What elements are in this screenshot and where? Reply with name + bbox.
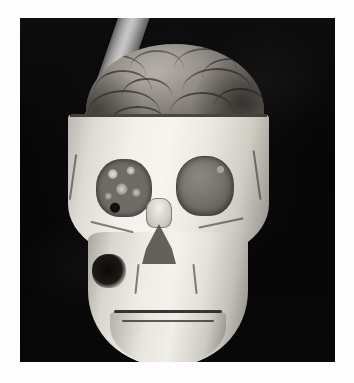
figure-caption [22,370,322,383]
dental-occlusal-line [114,310,222,313]
skull [66,114,271,362]
document-page [0,0,354,383]
maxillary-bone-defect [92,254,126,288]
left-orbit-bone-detail [96,159,152,217]
right-orbit-highlight [217,166,224,173]
right-orbit [176,156,234,216]
figure-panel [20,18,335,362]
craniotomy-cut-line [70,114,267,117]
nasal-bridge [146,198,172,228]
dental-occlusal-line-secondary [122,320,214,322]
left-orbit [96,159,152,217]
mandible [110,310,226,362]
render-stage [20,18,335,362]
